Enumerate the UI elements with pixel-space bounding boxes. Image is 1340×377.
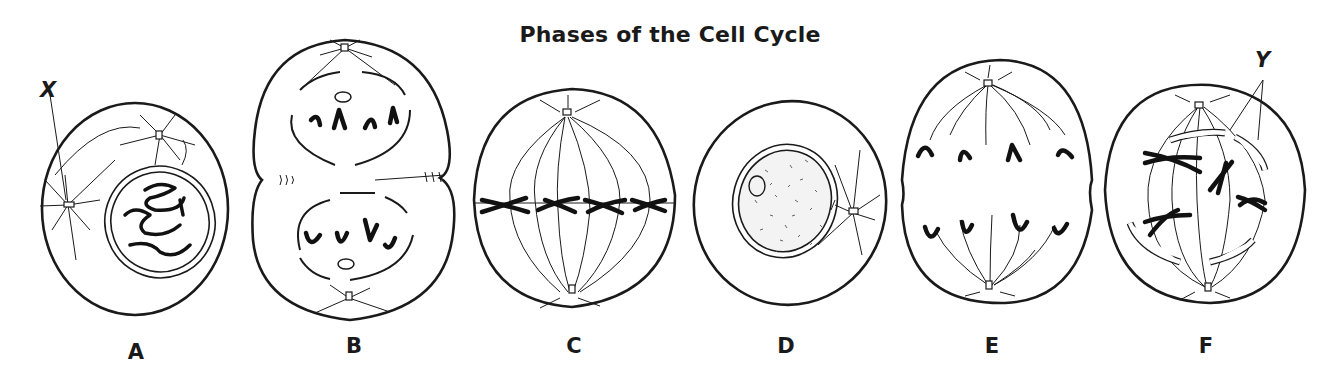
- centriole-icon: [984, 80, 992, 86]
- centriole-icon: [1195, 102, 1203, 108]
- cell-d: [678, 86, 903, 320]
- callout-y: Y: [1255, 48, 1270, 72]
- centriole-icon: [986, 281, 992, 289]
- cell-e: [902, 60, 1092, 303]
- cell-label-d: D: [766, 334, 806, 358]
- centriole-icon: [156, 131, 162, 139]
- centriole-icon: [64, 202, 74, 207]
- cell-cycle-diagram: [0, 0, 1340, 377]
- centriole-icon: [569, 285, 575, 293]
- cell-b: [252, 40, 454, 320]
- cell-label-b: B: [334, 334, 374, 358]
- centriole-icon: [346, 292, 352, 300]
- cell-label-f: F: [1186, 334, 1226, 358]
- centriole-icon: [1205, 283, 1211, 291]
- centriole-icon: [341, 44, 348, 51]
- cell-label-c: C: [554, 334, 594, 358]
- centriole-icon: [563, 109, 571, 115]
- cell-a: [40, 95, 231, 315]
- centriole-icon: [849, 208, 858, 214]
- cell-c: [474, 89, 675, 308]
- cell-label-a: A: [116, 340, 156, 364]
- callout-x: X: [40, 78, 56, 102]
- cell-f: [1105, 80, 1305, 303]
- cell-label-e: E: [972, 334, 1012, 358]
